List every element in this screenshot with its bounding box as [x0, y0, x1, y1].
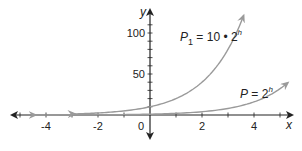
- x-tick-label: 2: [199, 120, 205, 132]
- x-tick-label: 0: [138, 120, 144, 132]
- y-tick-label: 50: [133, 68, 145, 80]
- y-tick-label: 100: [127, 27, 145, 39]
- x-axis-label: x: [285, 118, 293, 132]
- exponential-graph: -4-2024 50100 y x P1 = 10 • 2h P = 2h: [0, 0, 302, 151]
- curve-label-p1: P1 = 10 • 2h: [180, 28, 243, 47]
- curve-label-p: P = 2h: [240, 85, 273, 101]
- y-axis-label: y: [139, 5, 147, 19]
- x-tick-label: -2: [93, 120, 103, 132]
- x-tick-label: -4: [41, 120, 51, 132]
- y-axis-ticks: 50100: [127, 25, 153, 107]
- x-tick-label: 4: [251, 120, 257, 132]
